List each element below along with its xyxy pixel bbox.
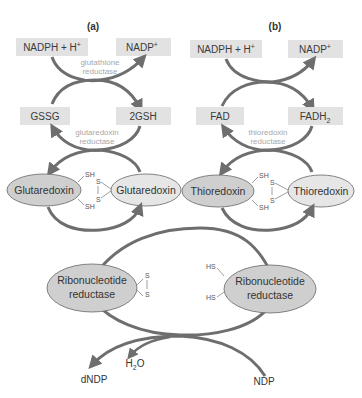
arrow-ndp-to-dndp <box>92 336 265 376</box>
thioredoxin-reduced-label: Thioredoxin <box>191 185 246 197</box>
nadp-label-b: NADP+ <box>299 43 331 55</box>
rnr-hs-top: HS <box>206 263 216 270</box>
fad-label: FAD <box>210 111 229 122</box>
thioredoxin-sh-bottom: SH <box>259 204 269 211</box>
2gsh-label: 2GSH <box>129 111 156 122</box>
thioredoxin-s-top: S <box>270 179 275 186</box>
arrow-thioredoxin-red-to-ox <box>222 208 312 230</box>
glutaredoxin-reductase-line1: glutaredoxin <box>75 128 119 137</box>
nadph-label-a: NADPH + H+ <box>23 41 81 53</box>
arrow-glutaredoxin-red-to-ox <box>48 207 140 230</box>
glutaredoxin-sh-top: SH <box>85 171 95 178</box>
glutaredoxin-s-bottom: S <box>96 196 101 203</box>
ndp-label: NDP <box>253 376 274 387</box>
glutaredoxin-reduced-label: Glutaredoxin <box>14 184 74 196</box>
panel-b-label: (b) <box>269 21 282 32</box>
arrow-nadph-to-nadp-b <box>226 59 313 82</box>
thioredoxin-s-bottom: S <box>270 197 275 204</box>
gssg-label: GSSG <box>31 111 60 122</box>
thioredoxin-reductase-line2: reductase <box>250 137 286 146</box>
glutathione-reductase-line1: glutathione <box>80 58 120 67</box>
dndp-label: dNDP <box>81 374 108 385</box>
rnr-left-line1: Ribonucleotide <box>57 274 127 286</box>
glutaredoxin-oxidized-label: Glutaredoxin <box>116 184 176 196</box>
panel-a-label: (a) <box>87 21 99 32</box>
ribonucleotide-reduction-diagram: (a) NADPH + H+ NADP+ glutathione reducta… <box>0 0 362 398</box>
glutaredoxin-reductase-line2: reductase <box>79 137 115 146</box>
glutaredoxin-sh-bottom: SH <box>85 203 95 210</box>
arrow-thioredoxin-ox-to-red <box>222 150 312 172</box>
thioredoxin-sh-top: SH <box>259 172 269 179</box>
arrow-fad-to-fadh2 <box>222 82 312 108</box>
arrow-gssg-to-2gsh-a <box>52 80 140 108</box>
nadp-label-a: NADP+ <box>126 41 158 53</box>
glutathione-reductase-line2: reductase <box>82 67 118 76</box>
glutaredoxin-s-top: S <box>96 178 101 185</box>
rnr-s-bottom: S <box>145 291 150 298</box>
arrow-glutaredoxin-ox-to-red <box>50 150 140 172</box>
rnr-hs-bottom: HS <box>206 294 216 301</box>
thioredoxin-reductase-line1: thioredoxin <box>248 128 287 137</box>
water-label: H2O <box>126 358 145 371</box>
nadph-label-b: NADPH + H+ <box>197 43 255 55</box>
rnr-s-top: S <box>145 272 150 279</box>
rnr-right-line2: reductase <box>247 289 293 301</box>
thioredoxin-oxidized-label: Thioredoxin <box>294 185 349 197</box>
rnr-right-line1: Ribonucleotide <box>235 275 305 287</box>
rnr-left-line2: reductase <box>69 288 115 300</box>
